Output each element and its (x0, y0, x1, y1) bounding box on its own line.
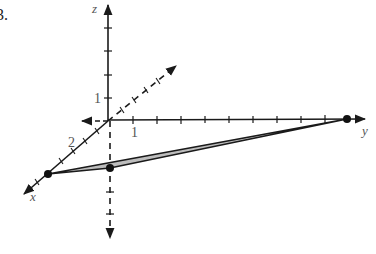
z-tick-label-1: 1 (94, 92, 101, 106)
x-tick-label-2: 2 (68, 136, 75, 150)
triangle-region (48, 119, 347, 174)
3d-axes-diagram (0, 0, 376, 254)
negative-x-axis (108, 66, 176, 121)
negative-z-axis (106, 121, 114, 238)
vertex-point-y (343, 115, 351, 123)
y-tick-label-1: 1 (131, 126, 138, 140)
x-axis (24, 121, 108, 194)
z-axis (104, 5, 112, 121)
z-axis-label: z (92, 2, 97, 15)
vertex-point-x (44, 170, 52, 178)
x-axis-label: x (30, 190, 36, 203)
y-axis-label: y (362, 124, 368, 137)
vertex-point-z (106, 164, 114, 172)
